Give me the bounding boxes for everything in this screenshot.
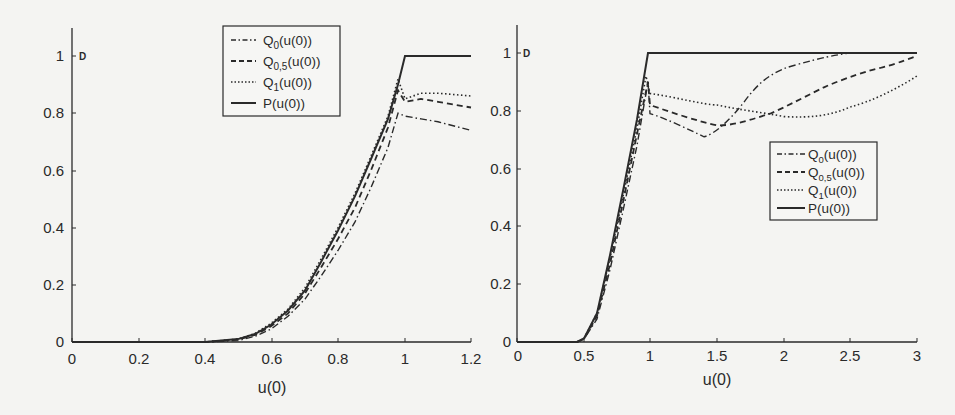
left-legend: Q0(u(0)) Q0,5(u(0)) Q1(u(0)) P(u(0)): [223, 26, 340, 116]
right-xtick-label: 1.5: [707, 347, 728, 364]
right-xtick-label: 0: [514, 347, 522, 364]
left-xtick-label: 0.4: [195, 350, 216, 367]
right-ytick-label: 0.2: [490, 275, 511, 292]
right-ytick-label: 0: [503, 333, 511, 350]
left-xtick-label: 1.2: [461, 350, 482, 367]
figure: 0 0.2 0.4 0.6 0.8 1 1.2 0 0.2 0.4 0.6 0.…: [0, 0, 955, 415]
left-ytick-label: 1: [56, 47, 64, 64]
left-series-Q05: [72, 90, 471, 342]
right-xtick-label: 2: [780, 347, 788, 364]
right-xtick-label: 3: [913, 347, 921, 364]
left-xtick-label: 0.2: [129, 350, 150, 367]
right-ytick-label: 0.8: [490, 102, 511, 119]
right-ytick-label: 0.4: [490, 217, 511, 234]
left-series-Q1: [72, 79, 471, 342]
left-xtick-label: 0.6: [262, 350, 283, 367]
right-chart: 0 0.5 1 1.5 2 2.5 3 0 0.2 0.4 0.6 0.8 1 …: [490, 25, 921, 388]
left-ytick-label: 0: [56, 333, 64, 350]
right-legend: Q0(u(0)) Q0,5(u(0)) Q1(u(0)) P(u(0)): [770, 142, 877, 220]
left-x-axis-title: u(0): [258, 379, 286, 396]
left-ytick-label: 0.4: [43, 219, 64, 236]
left-legend-item: P(u(0)): [263, 96, 305, 111]
left-chart: 0 0.2 0.4 0.6 0.8 1 1.2 0 0.2 0.4 0.6 0.…: [43, 26, 481, 396]
left-series-Q0: [72, 113, 471, 342]
right-xtick-label: 0.5: [574, 347, 595, 364]
left-corner-label: D: [79, 51, 86, 62]
left-xtick-label: 0: [68, 350, 76, 367]
right-legend-item: P(u(0)): [808, 201, 850, 216]
left-ytick-label: 0.2: [43, 276, 64, 293]
left-ytick-label: 0.8: [43, 104, 64, 121]
right-x-axis-title: u(0): [703, 371, 731, 388]
right-corner-label: D: [523, 48, 530, 59]
left-xtick-label: 1: [401, 350, 409, 367]
right-xtick-label: 1: [646, 347, 654, 364]
right-ytick-label: 0.6: [490, 160, 511, 177]
left-xtick-label: 0.8: [328, 350, 349, 367]
right-xtick-label: 2.5: [840, 347, 861, 364]
right-ytick-label: 1: [503, 44, 511, 61]
left-ytick-label: 0.6: [43, 162, 64, 179]
